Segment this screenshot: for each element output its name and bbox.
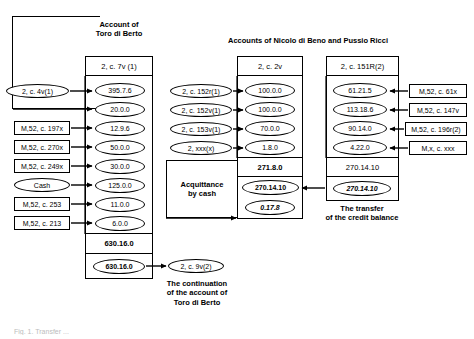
- ledger-flow-diagram: Account of Toro di Berto 2, c. 7v (1) 39…: [0, 0, 474, 339]
- figure-caption: Fig. 1. Transfer ...: [14, 328, 174, 335]
- connector-layer: [0, 0, 474, 339]
